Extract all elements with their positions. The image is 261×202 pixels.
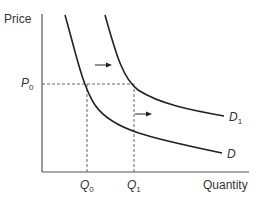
y-axis-label: Price xyxy=(4,12,31,26)
p0-label: P0 xyxy=(21,76,33,92)
q0-label: Q0 xyxy=(80,178,94,194)
x-axis-label: Quantity xyxy=(203,178,248,192)
shift-arrow-lower xyxy=(135,112,152,117)
q1-label: Q1 xyxy=(127,178,141,194)
demand-shift-diagram xyxy=(0,0,261,202)
demand-curve-d1 xyxy=(105,15,224,116)
d-curve-label: D xyxy=(227,147,236,161)
d1-curve-label: D1 xyxy=(229,110,242,126)
shift-arrow-upper xyxy=(95,63,112,68)
